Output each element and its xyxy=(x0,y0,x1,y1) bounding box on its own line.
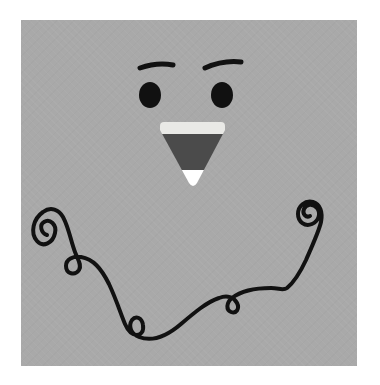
artboard: Face Doodle Gray square panel with a doo… xyxy=(0,0,380,385)
squiggle-line xyxy=(33,202,321,339)
squiggle-layer xyxy=(21,20,357,366)
gray-canvas-panel xyxy=(21,20,357,366)
